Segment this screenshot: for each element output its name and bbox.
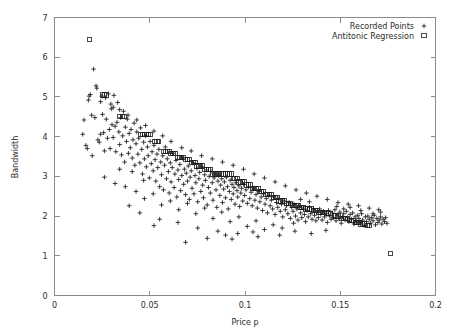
data-point-plus [139,147,144,152]
data-point-plus [239,186,244,191]
data-point-plus [241,167,246,172]
data-point-plus [123,184,128,189]
data-point-plus [231,163,236,168]
data-point-plus [86,98,91,103]
data-point-plus [167,191,172,196]
data-point-plus [283,207,288,212]
data-point-plus [184,171,189,176]
data-point-plus [112,93,117,98]
x-tick-label: 0.05 [141,301,159,310]
data-point-plus [142,196,147,201]
data-point-plus [255,206,260,211]
data-point-plus [176,220,181,225]
data-point-plus [158,160,163,165]
data-point-plus [104,117,109,122]
data-point-plus [205,203,210,208]
data-point-plus [169,139,174,144]
data-point-plus [244,188,249,193]
data-point-plus [193,173,198,178]
data-point-plus [211,198,216,203]
data-point-plus [100,112,105,117]
data-point-plus [219,210,224,215]
y-tick-label: 7 [42,14,47,23]
data-point-plus [157,147,162,152]
data-point-plus [140,172,145,177]
data-point-plus [208,191,213,196]
data-point-plus [80,132,85,137]
data-point-plus [218,193,223,198]
data-point-plus [303,219,308,224]
data-point-plus [105,136,110,141]
data-point-plus [98,99,103,104]
data-point-plus [189,149,194,154]
data-point-plus [183,192,188,197]
data-point-plus [237,215,242,220]
data-point-plus [262,176,267,181]
data-point-plus [120,134,125,139]
data-point-plus [199,153,204,158]
data-point-plus [117,130,122,135]
data-point-plus [162,163,167,168]
data-point-plus [126,151,131,156]
data-point-plus [168,199,173,204]
data-point-plus [161,188,166,193]
data-point-plus [102,149,107,154]
data-point-plus [138,211,143,216]
data-point-plus [172,185,177,190]
data-point-plus [107,127,112,132]
data-point-plus [291,209,296,214]
data-point-plus [253,198,258,203]
data-point-plus [325,197,330,202]
data-point-plus [286,211,291,216]
data-point-plus [91,67,96,72]
data-point-plus [223,196,228,201]
data-point-plus [138,161,143,166]
data-point-plus [273,212,278,217]
data-point-plus [227,189,232,194]
data-point-plus [115,100,120,105]
data-point-plus [173,172,178,177]
x-tick-label: 0.2 [429,301,442,310]
scatter-plot-svg: 01234567 00.050.10.150.2 Recorded Points… [0,0,454,333]
y-tick-label: 5 [42,93,47,102]
data-point-plus [225,184,230,189]
data-point-plus [113,181,118,186]
data-point-plus [260,208,265,213]
data-point-plus [334,219,339,224]
data-point-plus [187,197,192,202]
data-point-plus [221,187,226,192]
data-point-plus [324,228,329,233]
x-tick-label: 0.1 [239,301,252,310]
data-point-plus [197,170,202,175]
data-point-plus [210,157,215,162]
data-point-plus [298,197,303,202]
y-axis-title: Bandwidth [11,136,20,179]
data-point-plus [229,197,234,202]
data-point-plus [119,153,124,158]
data-point-plus [127,131,132,136]
data-point-plus [132,121,137,126]
data-point-plus [134,189,139,194]
y-tick-label: 4 [42,133,47,142]
data-point-plus [247,196,252,201]
data-point-plus [131,138,136,143]
data-point-plus [216,179,221,184]
data-point-plus [280,226,285,231]
data-point-plus [102,175,107,180]
data-point-plus [363,215,368,220]
data-point-plus [82,118,87,123]
data-point-plus [157,184,162,189]
data-point-plus [288,216,293,221]
data-point-plus [192,192,197,197]
data-point-plus [344,209,349,214]
data-point-plus [278,209,283,214]
data-point-plus [133,163,138,168]
data-point-plus [256,234,261,239]
data-point-plus [195,199,200,204]
data-point-plus [178,162,183,167]
data-point-plus [194,180,199,185]
data-point-plus [263,202,268,207]
data-point-plus [148,139,153,144]
data-point-plus [114,149,119,154]
data-point-plus [259,195,264,200]
